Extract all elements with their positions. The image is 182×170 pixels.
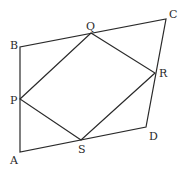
label-a: A: [9, 154, 19, 167]
label-r: R: [159, 67, 168, 80]
label-s: S: [78, 143, 86, 156]
label-d: D: [149, 130, 158, 143]
inner-quadrilateral-pqrs: [20, 33, 155, 140]
label-b: B: [10, 39, 18, 52]
label-q: Q: [86, 20, 95, 33]
outer-quadrilateral-abcd: [20, 19, 166, 152]
label-c: C: [169, 8, 177, 21]
label-p: P: [10, 94, 18, 107]
geometry-diagram: B A C D Q R P S: [0, 0, 182, 170]
